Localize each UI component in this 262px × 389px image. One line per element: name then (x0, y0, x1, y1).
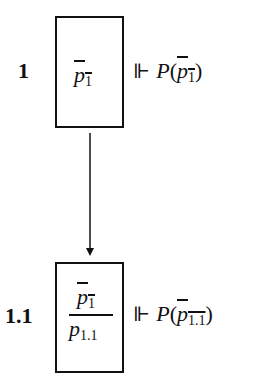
edge-arrow-1-to-1.1 (0, 0, 262, 389)
node-label-1.1: 1.1 (5, 303, 33, 329)
condition-box-1.1: p1 p1.1 (55, 262, 124, 373)
box-formula-1.1-line-1: p1 (77, 284, 95, 312)
box-formula-1.1-line-2: p1.1 (69, 316, 98, 344)
forces-symbol: ⊩ (133, 303, 148, 325)
forcing-statement-1.1: ⊩P(p1.1) (133, 301, 213, 329)
arrow-head-icon (86, 248, 94, 256)
